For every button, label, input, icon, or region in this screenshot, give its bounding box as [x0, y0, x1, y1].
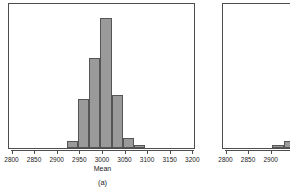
x-axis-tick: [192, 150, 193, 154]
x-axis-tick: [12, 150, 13, 154]
x-axis-tick: [34, 150, 35, 154]
x-axis-tick: [125, 150, 126, 154]
histogram-bar: [100, 18, 111, 148]
x-axis-tick: [147, 150, 148, 154]
histogram-bar: [272, 145, 283, 149]
x-axis-tick: [102, 150, 103, 154]
x-axis-tick-label: 2900: [257, 156, 285, 164]
histogram-panel-a: 2800 2850 2900 2950 3000 3050 3100 3150 …: [0, 0, 210, 190]
histogram-bar: [78, 99, 89, 148]
histogram-bar: [284, 141, 290, 148]
x-axis-tick-label: 3200: [178, 156, 206, 164]
histogram-bar: [123, 138, 134, 148]
x-axis-tick: [271, 150, 272, 154]
histogram-bar: [67, 141, 78, 148]
figure-caption: (a): [76, 178, 129, 187]
histogram-panel-b: 2800 2850 2900: [215, 0, 290, 190]
x-axis-tick: [57, 150, 58, 154]
histogram-bar: [112, 95, 123, 148]
x-axis-tick: [79, 150, 80, 154]
figure-container: 2800 2850 2900 2950 3000 3050 3100 3150 …: [0, 0, 290, 190]
x-axis-tick: [170, 150, 171, 154]
plot-frame-b: [222, 3, 290, 149]
x-axis-title: Mean: [76, 164, 129, 173]
x-axis-tick: [248, 150, 249, 154]
histogram-bar: [89, 58, 100, 148]
x-axis-tick: [226, 150, 227, 154]
histogram-bar: [134, 145, 145, 149]
x-axis-line-b: [225, 150, 290, 151]
